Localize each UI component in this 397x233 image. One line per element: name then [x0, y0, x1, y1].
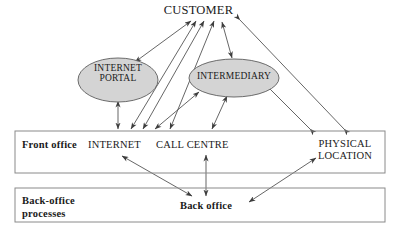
edge-physical-intermediary — [270, 89, 310, 129]
internet-label: INTERNET — [88, 139, 141, 150]
back-office-processes-label: Back-office processes — [22, 194, 112, 220]
physical-location-label: PHYSICAL LOCATION — [303, 138, 387, 163]
edge-callcentre-intermediary — [212, 96, 227, 129]
edge-group — [118, 20, 344, 202]
internet-portal-label-line2: PORTAL — [78, 73, 158, 83]
front-office-label: Front office — [22, 139, 77, 150]
internet-portal-label: INTERNET PORTAL — [78, 63, 158, 84]
edge-backoffice-physical — [249, 158, 316, 202]
physical-location-label-line1: PHYSICAL — [303, 138, 387, 150]
customer-label: CUSTOMER — [0, 4, 397, 18]
back-office-processes-label-line1: Back-office — [22, 194, 112, 207]
diagram-canvas: CUSTOMER INTERNET PORTAL INTERMEDIARY Fr… — [0, 0, 397, 233]
intermediary-label: INTERMEDIARY — [186, 71, 282, 81]
edge-intermediary-customer — [222, 22, 232, 58]
edge-internet-backoffice — [122, 156, 192, 196]
back-office-label: Back office — [166, 200, 246, 211]
physical-location-label-line2: LOCATION — [303, 150, 387, 162]
edge-internet-intermediary — [155, 92, 199, 129]
internet-portal-label-line1: INTERNET — [78, 63, 158, 73]
back-office-processes-label-line2: processes — [22, 207, 112, 220]
call-centre-label: CALL CENTRE — [156, 139, 229, 150]
edge-portal-customer — [135, 21, 191, 62]
